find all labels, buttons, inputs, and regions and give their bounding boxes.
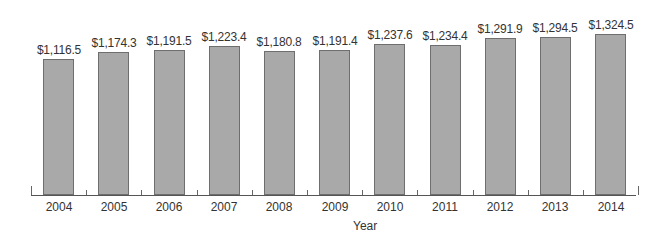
x-tick-label-2004: 2004 [34,200,84,214]
x-axis-tick [197,190,198,195]
x-tick-label-2014: 2014 [586,200,636,214]
x-axis-line [31,195,636,196]
bar-chart: $1,116.52004$1,174.32005$1,191.52006$1,2… [0,0,663,250]
x-axis-tick [141,190,142,195]
x-tick-label-2011: 2011 [420,200,470,214]
bar-2007 [209,46,240,195]
x-axis-tick [362,190,363,195]
x-axis-tick [252,190,253,195]
x-tick-label-2009: 2009 [310,200,360,214]
x-axis-tick [528,190,529,195]
x-tick-label-2013: 2013 [530,200,580,214]
bar-2008 [264,51,295,195]
bar-2012 [485,38,516,195]
bar-2013 [540,37,571,195]
bar-2010 [374,44,405,195]
x-axis-tick [417,190,418,195]
x-tick-label-2005: 2005 [89,200,139,214]
x-axis-tick [86,190,87,195]
x-tick-label-2007: 2007 [199,200,249,214]
x-tick-label-2008: 2008 [254,200,304,214]
x-axis-tick [473,190,474,195]
bar-2009 [319,50,350,195]
bar-2005 [98,52,129,195]
x-tick-label-2012: 2012 [475,200,525,214]
bar-2014 [595,34,626,195]
x-axis-tick [307,190,308,195]
bar-2011 [430,45,461,195]
x-axis-tick [638,186,639,195]
x-axis-tick [31,186,32,195]
x-tick-label-2006: 2006 [144,200,194,214]
x-axis-title: Year [353,219,377,233]
bar-2006 [154,50,185,195]
x-tick-label-2010: 2010 [365,200,415,214]
x-axis-tick [583,190,584,195]
value-label-2014: $1,324.5 [576,18,646,32]
bar-2004 [43,59,74,195]
